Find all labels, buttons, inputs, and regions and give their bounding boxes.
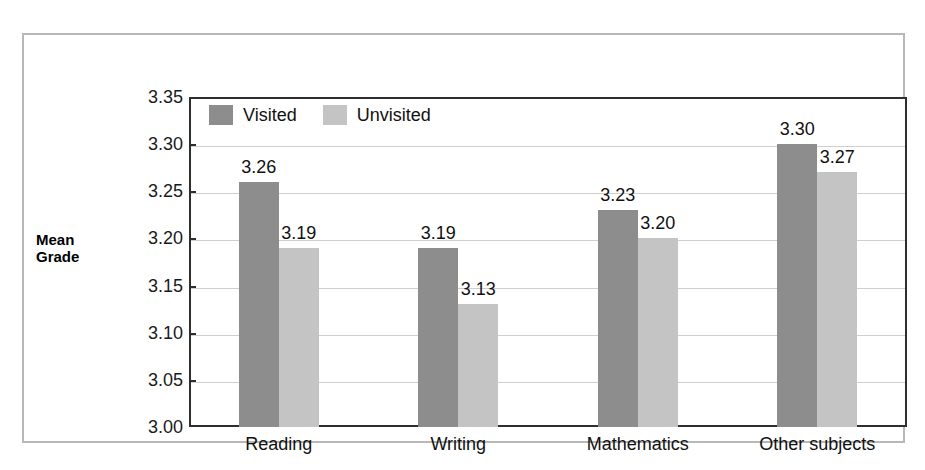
bar-visited-reading[interactable]	[239, 182, 279, 427]
y-tick-mark	[189, 333, 196, 335]
bar-value-label: 3.26	[234, 158, 284, 176]
bar-visited-other-subjects[interactable]	[777, 144, 817, 427]
bar-visited-mathematics[interactable]	[598, 210, 638, 427]
y-axis-tick-labels: 3.353.303.253.203.153.103.053.00	[117, 97, 183, 427]
bar-value-label: 3.23	[593, 186, 643, 204]
y-tick-label: 3.35	[121, 88, 183, 106]
chart-legend: VisitedUnvisited	[209, 105, 431, 125]
grouped-bar-chart: Mean Grade 3.353.303.253.203.153.103.053…	[24, 35, 903, 441]
y-tick-mark	[189, 238, 196, 240]
legend-label: Visited	[243, 106, 297, 124]
y-tick-label: 3.20	[121, 229, 183, 247]
bar-value-label: 3.20	[633, 214, 683, 232]
x-axis-category-labels: ReadingWritingMathematicsOther subjects	[189, 433, 907, 463]
legend-label: Unvisited	[357, 106, 431, 124]
y-axis-title: Mean Grade	[36, 231, 116, 265]
y-tick-label: 3.25	[121, 182, 183, 200]
y-tick-label: 3.10	[121, 324, 183, 342]
bar-value-label: 3.13	[453, 280, 503, 298]
y-tick-mark	[189, 286, 196, 288]
bar-unvisited-writing[interactable]	[458, 304, 498, 427]
y-tick-mark	[189, 191, 196, 193]
x-label-writing: Writing	[369, 433, 549, 455]
x-label-other-subjects: Other subjects	[728, 433, 908, 455]
y-tick-label: 3.05	[121, 371, 183, 389]
bar-visited-writing[interactable]	[418, 248, 458, 427]
bar-value-label: 3.27	[812, 148, 862, 166]
y-tick-mark	[189, 144, 196, 146]
bar-unvisited-mathematics[interactable]	[638, 238, 678, 427]
bars-layer: 3.263.193.193.133.233.203.303.27	[189, 97, 907, 427]
bar-unvisited-other-subjects[interactable]	[817, 172, 857, 427]
bar-value-label: 3.19	[274, 224, 324, 242]
bar-value-label: 3.30	[772, 120, 822, 138]
x-label-reading: Reading	[189, 433, 369, 455]
x-label-mathematics: Mathematics	[548, 433, 728, 455]
bar-value-label: 3.19	[413, 224, 463, 242]
legend-item-unvisited[interactable]: Unvisited	[323, 105, 431, 125]
bar-unvisited-reading[interactable]	[279, 248, 319, 427]
y-tick-mark	[189, 380, 196, 382]
figure-frame: Mean Grade 3.353.303.253.203.153.103.053…	[22, 33, 905, 443]
y-tick-label: 3.15	[121, 277, 183, 295]
legend-swatch-unvisited-icon	[323, 105, 347, 125]
legend-item-visited[interactable]: Visited	[209, 105, 297, 125]
y-tick-label: 3.00	[121, 418, 183, 436]
y-tick-label: 3.30	[121, 135, 183, 153]
legend-swatch-visited-icon	[209, 105, 233, 125]
